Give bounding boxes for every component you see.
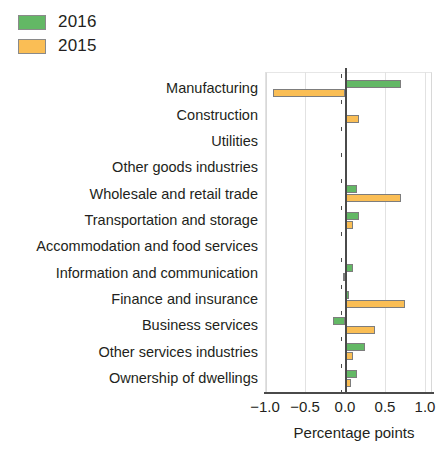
plot-area: [266, 72, 432, 394]
zero-line: [345, 68, 347, 394]
category-label: Transportation and storage: [0, 213, 262, 227]
bar-group: [266, 128, 432, 154]
category-label: Construction: [0, 108, 262, 122]
axis-tick: [341, 364, 342, 368]
x-tick-label: 0.5: [375, 398, 396, 415]
x-axis-tick-labels: −1.0−0.50.00.51.0: [266, 398, 432, 418]
bar-group: [266, 259, 432, 285]
bar-2015: [345, 300, 405, 308]
bar-2016: [345, 212, 359, 220]
bar-2015: [345, 326, 375, 334]
axis-tick: [341, 390, 342, 394]
category-label: Ownership of dwellings: [0, 371, 262, 385]
bar-group: [266, 101, 432, 127]
bar-group: [266, 207, 432, 233]
x-axis-title: Percentage points: [266, 424, 442, 441]
legend-label-2015: 2015: [58, 36, 97, 56]
category-label: Utilities: [0, 134, 262, 148]
x-tick-label: −0.5: [290, 398, 320, 415]
bar-chart: ManufacturingConstructionUtilitiesOther …: [0, 72, 442, 412]
legend-swatch-2015: [18, 39, 46, 54]
x-tick-label: −1.0: [250, 398, 280, 415]
bar-2016: [333, 317, 345, 325]
bar-group: [266, 338, 432, 364]
category-label: Accommodation and food services: [0, 239, 262, 253]
bar-2016: [345, 185, 357, 193]
legend-item-2015: 2015: [18, 34, 198, 58]
category-label: Other services industries: [0, 345, 262, 359]
x-tick-label: 1.0: [415, 398, 436, 415]
category-label: Other goods industries: [0, 160, 262, 174]
bar-group: [266, 154, 432, 180]
bar-2016: [345, 370, 357, 378]
x-tick-label: 0.0: [335, 398, 356, 415]
axis-tick: [341, 100, 342, 104]
category-label: Information and communication: [0, 266, 262, 280]
axis-tick: [341, 127, 342, 131]
category-label: Business services: [0, 318, 262, 332]
bar-2015: [345, 194, 401, 202]
category-label: Wholesale and retail trade: [0, 187, 262, 201]
bar-group: [266, 180, 432, 206]
axis-tick: [341, 232, 342, 236]
bar-2016: [345, 343, 365, 351]
axis-tick: [341, 258, 342, 262]
axis-tick: [341, 179, 342, 183]
bar-group: [266, 233, 432, 259]
bar-group: [266, 365, 432, 391]
category-label: Manufacturing: [0, 81, 262, 95]
category-label: Finance and insurance: [0, 292, 262, 306]
axis-tick: [341, 153, 342, 157]
bar-group: [266, 286, 432, 312]
axis-tick: [341, 337, 342, 341]
legend-swatch-2016: [18, 15, 46, 30]
axis-tick: [341, 311, 342, 315]
x-axis-line: [264, 392, 434, 394]
bar-2015: [273, 89, 345, 97]
axis-tick: [341, 74, 342, 78]
bar-2016: [345, 80, 401, 88]
legend-item-2016: 2016: [18, 10, 198, 34]
axis-tick: [341, 206, 342, 210]
legend-label-2016: 2016: [58, 12, 97, 32]
chart-legend: 2016 2015: [18, 10, 198, 58]
axis-tick: [341, 285, 342, 289]
bar-group: [266, 75, 432, 101]
bar-2015: [345, 115, 359, 123]
category-axis-labels: ManufacturingConstructionUtilitiesOther …: [0, 72, 262, 394]
bar-group: [266, 312, 432, 338]
